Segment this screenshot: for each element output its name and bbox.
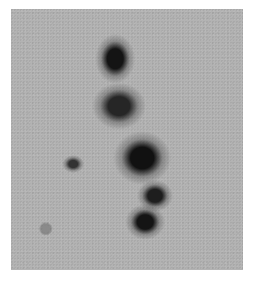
blob-center-large bbox=[113, 131, 171, 185]
blob-top bbox=[95, 34, 135, 84]
blob-lower bbox=[125, 204, 165, 240]
blob-upper-middle bbox=[92, 83, 146, 130]
blob-small-left bbox=[62, 155, 84, 173]
